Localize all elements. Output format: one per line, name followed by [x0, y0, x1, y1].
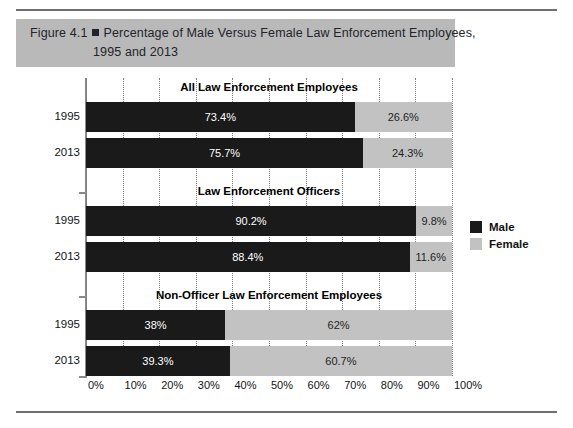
- x-axis-tick-label: 60%: [308, 379, 330, 391]
- bar-segment-female: 62%: [225, 310, 452, 340]
- bar-row: 39.3%60.7%: [86, 346, 452, 376]
- y-axis-tick: [79, 192, 86, 194]
- y-axis-labels: 199520131995201319952013: [30, 78, 80, 376]
- x-axis: 0%10%20%30%40%50%60%70%80%90%100%: [86, 376, 452, 396]
- bar-row: 38%62%: [86, 310, 452, 340]
- y-axis-label: 2013: [36, 146, 80, 158]
- bar-segment-female: 26.6%: [355, 102, 452, 132]
- bar-row: 75.7%24.3%: [86, 138, 452, 168]
- x-axis-tick-label: 50%: [271, 379, 293, 391]
- bar-segment-female: 9.8%: [416, 206, 452, 236]
- bar-row: 90.2%9.8%: [86, 206, 452, 236]
- y-axis-label: 2013: [36, 354, 80, 366]
- group-header: Non-Officer Law Enforcement Employees: [86, 289, 452, 301]
- bar-segment-male: 38%: [86, 310, 225, 340]
- y-axis-label: 1995: [36, 214, 80, 226]
- bar-segment-male: 39.3%: [86, 346, 230, 376]
- x-axis-tick-label: 100%: [454, 379, 482, 391]
- group-header: Law Enforcement Officers: [86, 185, 452, 197]
- bar-segment-female: 60.7%: [230, 346, 452, 376]
- plot-area: All Law Enforcement Employees73.4%26.6%7…: [86, 78, 452, 376]
- y-axis-label: 2013: [36, 250, 80, 262]
- bar-row: 73.4%26.6%: [86, 102, 452, 132]
- x-axis-tick-label: 0%: [88, 379, 104, 391]
- bar-row: 88.4%11.6%: [86, 242, 452, 272]
- x-axis-tick-label: 30%: [198, 379, 220, 391]
- chart-legend: MaleFemale: [470, 218, 560, 252]
- y-axis-label: 1995: [36, 318, 80, 330]
- group-header: All Law Enforcement Employees: [86, 81, 452, 93]
- legend-label: Female: [489, 238, 529, 250]
- legend-swatch-male: [470, 221, 482, 233]
- gridline: [452, 78, 454, 376]
- legend-item: Female: [470, 235, 560, 252]
- x-axis-tick-label: 70%: [344, 379, 366, 391]
- bar-segment-female: 24.3%: [363, 138, 452, 168]
- legend-label: Male: [489, 221, 515, 233]
- legend-item: Male: [470, 218, 560, 235]
- legend-swatch-female: [470, 238, 482, 250]
- x-axis-tick-label: 80%: [381, 379, 403, 391]
- bar-segment-male: 75.7%: [86, 138, 363, 168]
- y-axis-tick: [79, 296, 86, 298]
- x-axis-tick-label: 10%: [125, 379, 147, 391]
- chart-canvas: All Law Enforcement Employees73.4%26.6%7…: [0, 0, 573, 428]
- bar-segment-female: 11.6%: [410, 242, 452, 272]
- bar-segment-male: 73.4%: [86, 102, 355, 132]
- bar-segment-male: 90.2%: [86, 206, 416, 236]
- x-axis-tick-label: 90%: [417, 379, 439, 391]
- y-axis-label: 1995: [36, 110, 80, 122]
- x-axis-tick-label: 20%: [161, 379, 183, 391]
- x-axis-tick-label: 40%: [234, 379, 256, 391]
- figure-bottom-rule: [16, 411, 557, 413]
- bar-segment-male: 88.4%: [86, 242, 410, 272]
